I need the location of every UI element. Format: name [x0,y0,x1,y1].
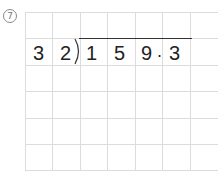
grid-line [25,12,218,13]
dividend-digit: 5 [106,40,133,66]
problem-number-badge: 7 [3,9,17,23]
division-bar [79,38,192,39]
grid-line [25,170,218,171]
grid-line [25,118,218,119]
divisor-digit: 3 [25,40,52,66]
grid-line [25,144,218,145]
problem-number: 7 [7,11,13,21]
dividend-digit: 3 [161,40,188,66]
dividend-digit: 1 [78,40,105,66]
grid-line [25,91,218,92]
dividend-digit: 9 [133,40,160,66]
long-division-grid [25,12,218,170]
